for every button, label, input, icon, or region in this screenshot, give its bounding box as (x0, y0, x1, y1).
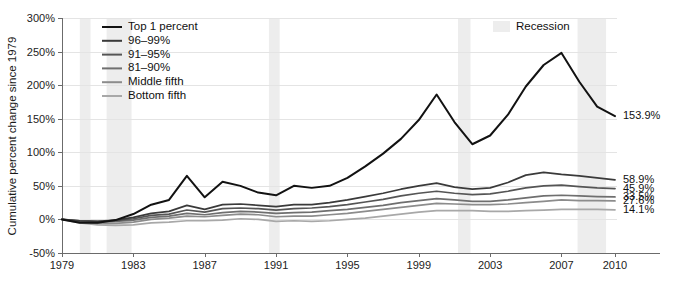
recession-band (578, 18, 607, 253)
x-tick-label: 1979 (50, 259, 74, 271)
y-axis-title: Cumulative percent change since 1979 (6, 37, 18, 236)
legend-label-3: 91–95% (128, 48, 170, 60)
chart-container: -50%0%50%100%150%200%250%300% 1979198319… (0, 0, 673, 288)
x-axis-tick-labels: 197919831987199119951999200320072010 (50, 259, 627, 271)
recession-band (269, 18, 280, 253)
legend-label-2: 96–99% (128, 34, 170, 46)
y-tick-label: 200% (27, 79, 55, 91)
recession-legend-label: Recession (516, 20, 570, 32)
x-tick-label: 1995 (335, 259, 359, 271)
x-tick-label: 2010 (603, 259, 627, 271)
y-tick-label: 0% (39, 213, 55, 225)
legend-label-1: Top 1 percent (128, 20, 198, 32)
recession-legend-swatch (493, 21, 510, 32)
y-tick-label: 100% (27, 146, 55, 158)
legend-label-6: Bottom fifth (128, 89, 186, 101)
y-tick-label: 150% (27, 113, 55, 125)
legend-label-5: Middle fifth (128, 75, 184, 87)
line-chart: -50%0%50%100%150%200%250%300% 1979198319… (0, 0, 673, 288)
series-end-label-6: 14.1% (623, 203, 654, 215)
recession-band (80, 18, 91, 253)
legend-label-4: 81–90% (128, 61, 170, 73)
x-tick-label: 2003 (478, 259, 502, 271)
y-tick-label: 50% (33, 180, 55, 192)
series-end-label-1: 153.9% (623, 109, 661, 121)
x-tick-label: 1991 (264, 259, 288, 271)
series-line-3 (62, 185, 615, 221)
x-tick-label: 1999 (407, 259, 431, 271)
x-tick-label: 1987 (192, 259, 216, 271)
series-end-labels: 153.9%58.9%45.9%33.5%27.6%14.1% (623, 109, 661, 215)
y-tick-label: 250% (27, 46, 55, 58)
y-axis-tick-labels: -50%0%50%100%150%200%250%300% (27, 12, 55, 259)
recession-legend: Recession (493, 20, 570, 32)
x-tick-label: 2007 (549, 259, 573, 271)
x-tick-label: 1983 (121, 259, 145, 271)
y-tick-label: -50% (29, 247, 55, 259)
y-tick-label: 300% (27, 12, 55, 24)
